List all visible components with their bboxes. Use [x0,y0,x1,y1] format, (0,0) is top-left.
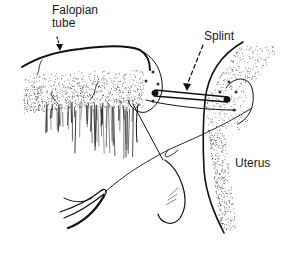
stipple-dot [136,70,137,71]
stipple-dot [37,89,38,90]
stipple-dot [142,72,143,73]
striation-line [103,106,104,153]
stipple-dot [208,118,209,119]
stipple-dot [41,99,42,100]
stipple-dot [219,174,220,175]
stipple-dot [92,83,93,84]
stipple-dot [224,114,225,115]
stipple-dot [216,103,217,104]
stipple-dot [95,100,96,101]
stipple-dot [234,55,235,56]
stipple-dot [214,106,215,107]
stipple-dot [217,161,218,162]
stipple-dot [245,82,246,83]
stipple-dot [130,76,131,77]
stipple-dot [51,101,52,102]
stipple-dot [219,137,220,138]
stipple-dot [218,90,219,91]
stipple-dot [62,84,63,85]
stipple-dot [248,50,249,51]
stipple-dot [33,86,34,87]
stipple-dot [78,79,79,80]
stipple-dot [102,97,103,98]
stipple-dot [215,164,216,165]
stipple-dot [50,93,51,94]
stipple-dot [24,113,25,114]
stipple-dot [223,72,224,73]
stipple-dot [65,90,66,91]
stipple-dot [33,110,34,111]
stipple-dot [73,78,74,79]
stipple-dot [212,93,213,94]
stipple-dot [135,91,136,92]
stipple-dot [225,193,226,194]
stipple-dot [222,133,223,134]
stipple-dot [240,117,241,118]
stipple-dot [223,188,224,189]
stipple-dot [219,214,220,215]
stipple-dot [235,104,236,105]
stipple-dot [104,86,105,87]
stipple-dot [216,126,217,127]
stipple-dot [87,103,88,104]
stipple-dot [220,187,221,188]
stipple-dot [222,188,223,189]
stipple-dot [63,95,64,96]
stipple-dot [107,81,108,82]
stipple-dot [255,72,256,73]
stipple-dot [217,84,218,85]
stipple-dot [63,85,64,86]
stipple-dot [42,78,43,79]
stipple-dot [221,176,222,177]
stipple-dot [29,97,30,98]
stipple-dot [39,88,40,89]
stipple-dot [240,49,241,50]
stipple-dot [98,87,99,88]
stipple-dot [38,95,39,96]
stipple-dot [126,100,127,101]
stipple-dot [107,102,108,103]
stipple-dot [115,78,116,79]
stipple-dot [219,129,220,130]
stipple-dot [74,94,75,95]
stipple-dot [70,74,71,75]
stipple-dot [220,84,221,85]
stipple-dot [130,90,131,91]
stipple-dot [121,103,122,104]
stipple-dot [29,108,30,109]
stipple-dot [228,123,229,124]
stipple-dot [217,133,218,134]
stipple-dot [222,170,223,171]
stipple-dot [45,86,46,87]
stipple-dot [88,76,89,77]
stipple-dot [222,136,223,137]
stipple-dot [265,60,266,61]
stipple-dot [238,50,239,51]
stipple-dot [218,139,219,140]
stipple-dot [232,203,233,204]
stipple-dot [216,144,217,145]
stipple-dot [220,164,221,165]
stipple-dot [211,156,212,157]
stipple-dot [224,104,225,105]
stipple-dot [39,102,40,103]
stipple-dot [30,91,31,92]
stipple-dot [241,97,242,98]
stipple-dot [212,155,213,156]
stipple-dot [223,150,224,151]
stipple-dot [64,107,65,108]
stipple-dot [212,164,213,165]
stipple-dot [122,91,123,92]
stipple-dot [247,75,248,76]
stipple-dot [113,81,114,82]
stipple-dot [44,107,45,108]
stipple-dot [237,63,238,64]
stipple-dot [83,85,84,86]
stipple-dot [223,193,224,194]
stipple-dot [41,87,42,88]
stipple-dot [227,211,228,212]
stipple-dot [252,78,253,79]
stipple-dot [74,73,75,74]
stipple-dot [226,163,227,164]
stipple-dot [107,97,108,98]
